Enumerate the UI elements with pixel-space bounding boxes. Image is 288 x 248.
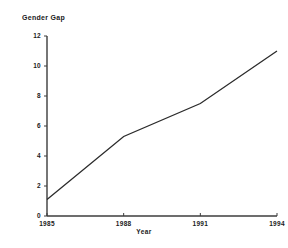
y-tick-label: 6 [37, 122, 41, 129]
y-axis: 024681012 [33, 32, 47, 219]
chart-plot-area: 024681012 1985198819911994 [0, 0, 288, 248]
x-tick-label: 1991 [192, 220, 208, 227]
x-tick-label: 1985 [39, 220, 55, 227]
y-tick-label: 12 [33, 32, 41, 39]
x-axis: 1985198819911994 [39, 213, 285, 227]
y-tick-label: 2 [37, 182, 41, 189]
data-series [47, 51, 277, 200]
y-tick-label: 8 [37, 92, 41, 99]
x-axis-title: Year [0, 228, 288, 235]
chart-container: Gender Gap 024681012 1985198819911994 Ye… [0, 0, 288, 248]
x-tick-label: 1994 [269, 220, 285, 227]
y-tick-label: 4 [37, 152, 41, 159]
x-tick-label: 1988 [116, 220, 132, 227]
series-line-gender-gap [47, 51, 277, 200]
y-tick-label: 10 [33, 62, 41, 69]
y-tick-label: 0 [37, 212, 41, 219]
